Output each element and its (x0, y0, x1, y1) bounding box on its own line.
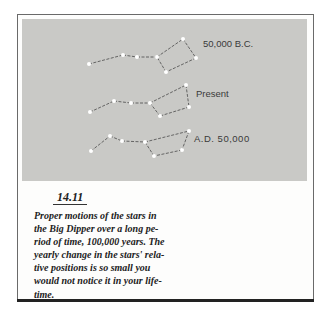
connector-line (154, 150, 182, 156)
connector-line (150, 103, 160, 116)
caption-line: riod of time, 100,000 years. The (34, 235, 194, 248)
figure-number: 14.11 (57, 190, 83, 205)
connector-line (150, 85, 186, 103)
star-icon (158, 114, 162, 118)
star-icon (180, 148, 184, 152)
star-icon (88, 110, 92, 114)
label-50000-bc: 50,000 B.C. (203, 38, 253, 49)
star-icon (187, 105, 191, 109)
star-icon (194, 56, 198, 60)
connector-line (91, 136, 110, 151)
star-icon (148, 101, 152, 105)
connector-line (166, 58, 196, 72)
constellation-1 (88, 83, 191, 118)
connector-line (123, 55, 137, 57)
star-icon (120, 139, 124, 143)
star-icon (164, 70, 168, 74)
star-icon (112, 99, 116, 103)
star-icon (121, 53, 125, 57)
connector-line (114, 101, 131, 103)
caption-line: yearly change in the stars' rela- (34, 248, 194, 261)
connector-line (145, 142, 154, 156)
star-icon (187, 129, 191, 133)
star-icon (108, 134, 112, 138)
star-icon (181, 37, 185, 41)
connector-line (89, 55, 123, 64)
connector-line (182, 131, 189, 150)
connector-line (186, 85, 189, 107)
connector-line (157, 57, 166, 72)
label-ad-50000: A.D. 50,000 (194, 133, 250, 144)
star-icon (152, 154, 156, 158)
caption-line: would not notice it in your life- (34, 274, 194, 287)
bottom-rule (17, 299, 314, 302)
connector-line (160, 107, 189, 116)
label-present: Present (196, 88, 229, 99)
connector-line (122, 141, 145, 142)
caption-line: Proper motions of the stars in (34, 209, 194, 222)
constellation-0 (87, 37, 198, 74)
star-icon (184, 83, 188, 87)
figure-caption: Proper motions of the stars in the Big D… (34, 209, 194, 301)
caption-line: the Big Dipper over a long pe- (34, 222, 194, 235)
figure-number-underline (53, 204, 87, 205)
connector-line (157, 39, 183, 57)
star-icon (89, 149, 93, 153)
star-icon (155, 55, 159, 59)
star-icon (143, 140, 147, 144)
caption-line: tive positions is so small you (34, 261, 194, 274)
star-icon (135, 55, 139, 59)
connector-line (145, 131, 189, 142)
star-icon (87, 62, 91, 66)
star-icon (129, 101, 133, 105)
connector-line (183, 39, 196, 58)
constellation-2 (89, 129, 191, 158)
connector-line (90, 101, 114, 112)
